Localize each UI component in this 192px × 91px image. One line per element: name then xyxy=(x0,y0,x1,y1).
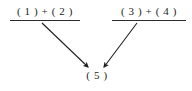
conclusion-node: ( 5 ) xyxy=(81,70,113,81)
arrow-right-to-conclusion xyxy=(104,23,137,67)
derivation-diagram: ( 1 ) + ( 2 ) ( 3 ) + ( 4 ) ( 5 ) xyxy=(0,0,192,91)
arrow-left-to-conclusion xyxy=(42,23,88,67)
conclusion-label: ( 5 ) xyxy=(86,69,107,81)
